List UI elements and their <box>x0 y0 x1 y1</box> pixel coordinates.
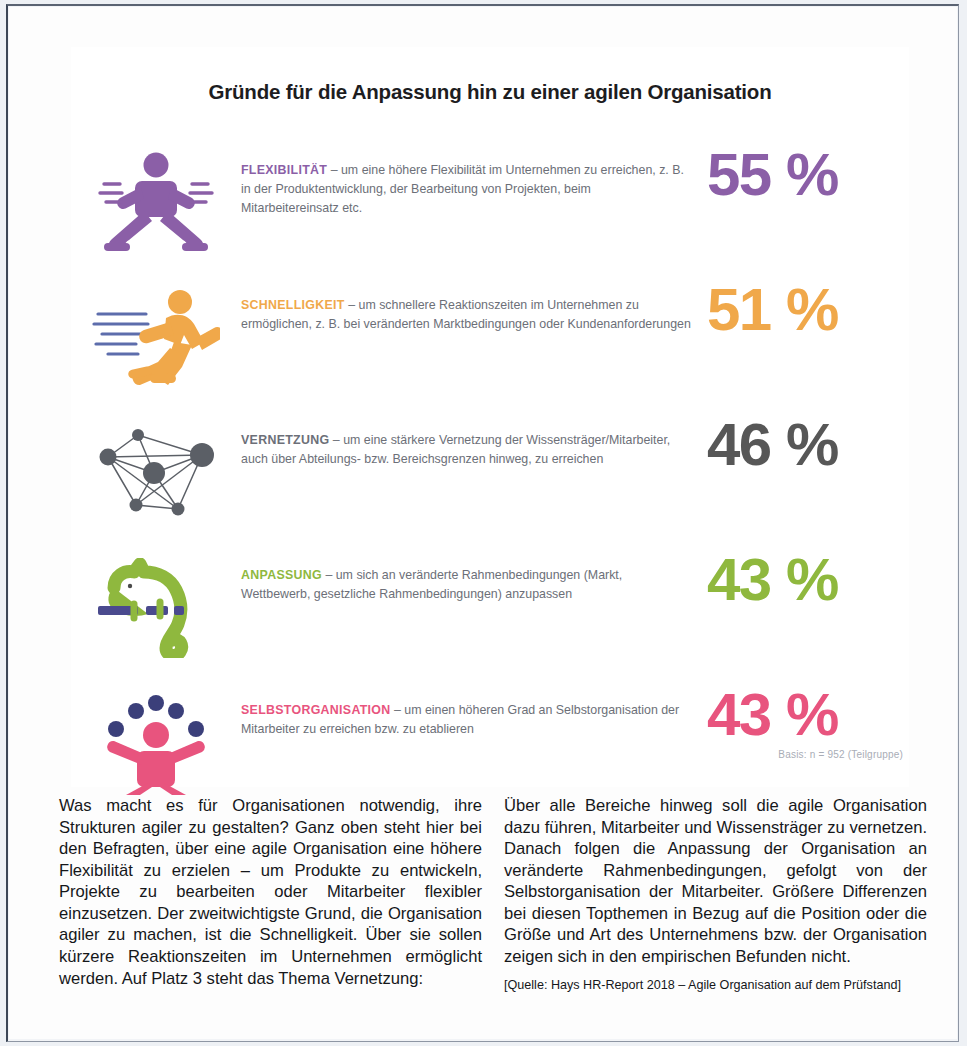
reason-row-flexibilitaet: FLEXIBILITÄT – um eine höhere Flexibilit… <box>71 143 909 278</box>
chameleon-icon <box>71 548 241 668</box>
scanned-page: Gründe für die Anpassung hin zu einer ag… <box>0 0 967 1046</box>
reason-percentage: 43 % <box>707 685 909 745</box>
network-nodes-icon <box>71 413 241 533</box>
running-person-icon <box>71 278 241 398</box>
stretching-person-icon <box>71 143 241 263</box>
reason-text-anpassung: ANPASSUNG – um sich an veränderte Rahmen… <box>241 548 701 604</box>
reason-kicker: ANPASSUNG <box>241 568 322 582</box>
reason-value-cell: 51 % <box>701 278 909 340</box>
basis-note: Basis: n = 952 (Teilgruppe) <box>778 749 903 760</box>
reason-row-anpassung: ANPASSUNG – um sich an veränderte Rahmen… <box>71 548 909 683</box>
reasons-list: FLEXIBILITÄT – um eine höhere Flexibilit… <box>71 143 909 818</box>
paper-surface: Gründe für die Anpassung hin zu einer ag… <box>9 7 957 1039</box>
article-paragraph-right: Über alle Bereiche hinweg soll die agile… <box>504 795 927 968</box>
reason-value-cell: 43 % <box>701 548 909 610</box>
reason-value-cell: 55 % <box>701 143 909 205</box>
infographic-panel: Gründe für die Anpassung hin zu einer ag… <box>71 47 909 787</box>
reason-row-schnelligkeit: SCHNELLIGKEIT – um schnellere Reaktionsz… <box>71 278 909 413</box>
reason-row-vernetzung: VERNETZUNG – um eine stärkere Vernetzung… <box>71 413 909 548</box>
reason-percentage: 43 % <box>707 550 909 610</box>
juggling-person-icon <box>71 683 241 803</box>
reason-text-flexibilitaet: FLEXIBILITÄT – um eine höhere Flexibilit… <box>241 143 701 218</box>
article-column-right: Über alle Bereiche hinweg soll die agile… <box>504 795 927 993</box>
reason-kicker: VERNETZUNG <box>241 433 329 447</box>
article-paragraph-left: Was macht es für Organisationen notwendi… <box>59 795 482 989</box>
reason-text-schnelligkeit: SCHNELLIGKEIT – um schnellere Reaktionsz… <box>241 278 701 334</box>
reason-value-cell: 46 % <box>701 413 909 475</box>
reason-kicker: SELBSTORGANISATION <box>241 703 391 717</box>
reason-value-cell: 43 % <box>701 683 909 745</box>
reason-text-selbstorganisation: SELBSTORGANISATION – um einen höheren Gr… <box>241 683 701 739</box>
source-note: [Quelle: Hays HR-Report 2018 – Agile Org… <box>504 977 927 993</box>
reason-percentage: 55 % <box>707 145 909 205</box>
reason-percentage: 46 % <box>707 415 909 475</box>
reason-percentage: 51 % <box>707 280 909 340</box>
reason-kicker: SCHNELLIGKEIT <box>241 298 345 312</box>
article-column-left: Was macht es für Organisationen notwendi… <box>59 795 482 993</box>
article-body: Was macht es für Organisationen notwendi… <box>59 795 927 993</box>
chart-title: Gründe für die Anpassung hin zu einer ag… <box>71 80 909 104</box>
reason-text-vernetzung: VERNETZUNG – um eine stärkere Vernetzung… <box>241 413 701 469</box>
reason-kicker: FLEXIBILITÄT <box>241 163 327 177</box>
